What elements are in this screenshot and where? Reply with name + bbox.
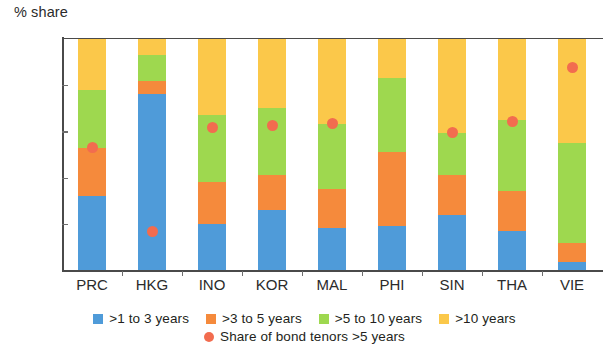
bar-segment bbox=[138, 81, 166, 95]
bar-group bbox=[198, 39, 226, 270]
bar-group bbox=[258, 39, 286, 270]
bar-group bbox=[438, 39, 466, 270]
bar-segment bbox=[78, 148, 106, 197]
bar-segment bbox=[558, 262, 586, 270]
bar-segment bbox=[318, 189, 346, 228]
overlay-data-point bbox=[87, 142, 98, 153]
bar-segment bbox=[378, 226, 406, 270]
legend-label: >10 years bbox=[455, 311, 516, 326]
bar-segment bbox=[258, 210, 286, 270]
bar-segment bbox=[558, 243, 586, 261]
legend-circle-icon bbox=[204, 332, 214, 342]
x-axis-category-label: VIE bbox=[537, 276, 607, 293]
legend-square-icon bbox=[319, 314, 329, 324]
overlay-data-point bbox=[207, 122, 218, 133]
bar-segment bbox=[78, 90, 106, 148]
y-axis-title: % share bbox=[14, 4, 68, 20]
bar-segment bbox=[138, 39, 166, 55]
bar-segment bbox=[138, 55, 166, 80]
bar-segment bbox=[198, 182, 226, 224]
overlay-data-point bbox=[447, 127, 458, 138]
stacked-bar-chart: % share 020406080100 PRCHKGINOKORMALPHIS… bbox=[0, 0, 609, 345]
legend-item[interactable]: >10 years bbox=[439, 311, 516, 326]
legend-item[interactable]: >1 to 3 years bbox=[93, 311, 189, 326]
bar-segment bbox=[78, 196, 106, 270]
bar-segment bbox=[498, 231, 526, 270]
legend-item[interactable]: Share of bond tenors >5 years bbox=[204, 329, 405, 344]
bar-segment bbox=[318, 124, 346, 189]
legend-square-icon bbox=[206, 314, 216, 324]
overlay-data-point bbox=[147, 226, 158, 237]
bar-segment bbox=[498, 39, 526, 120]
legend-primary-row: >1 to 3 years>3 to 5 years>5 to 10 years… bbox=[0, 311, 609, 326]
bar-segment bbox=[558, 39, 586, 143]
legend-label: >3 to 5 years bbox=[222, 311, 302, 326]
bar-segment bbox=[318, 39, 346, 124]
bar-segment bbox=[438, 39, 466, 133]
bar-segment bbox=[258, 108, 286, 175]
bar-group bbox=[138, 39, 166, 270]
bar-segment bbox=[258, 39, 286, 108]
bar-segment bbox=[318, 228, 346, 270]
legend-item[interactable]: >5 to 10 years bbox=[319, 311, 422, 326]
legend-label: Share of bond tenors >5 years bbox=[220, 329, 405, 344]
bar-group bbox=[78, 39, 106, 270]
plot-area bbox=[62, 39, 602, 270]
bar-segment bbox=[498, 120, 526, 192]
legend-square-icon bbox=[93, 314, 103, 324]
overlay-data-point bbox=[267, 120, 278, 131]
x-axis-line bbox=[62, 270, 603, 272]
overlay-data-point bbox=[327, 118, 338, 129]
bar-segment bbox=[138, 94, 166, 270]
bar-segment bbox=[438, 133, 466, 176]
bar-segment bbox=[258, 175, 286, 210]
bar-segment bbox=[198, 39, 226, 115]
bar-group bbox=[378, 39, 406, 270]
bar-segment bbox=[198, 224, 226, 270]
bar-segment bbox=[438, 215, 466, 270]
bar-segment bbox=[438, 175, 466, 214]
bar-segment bbox=[498, 191, 526, 230]
bar-segment bbox=[78, 39, 106, 90]
bar-segment bbox=[558, 143, 586, 243]
legend-square-icon bbox=[439, 314, 449, 324]
legend-secondary-row: Share of bond tenors >5 years bbox=[0, 329, 609, 344]
overlay-data-point bbox=[507, 116, 518, 127]
overlay-data-point bbox=[567, 62, 578, 73]
legend-label: >1 to 3 years bbox=[109, 311, 189, 326]
bar-segment bbox=[378, 152, 406, 226]
bar-segment bbox=[378, 39, 406, 78]
legend-item[interactable]: >3 to 5 years bbox=[206, 311, 302, 326]
bar-group bbox=[318, 39, 346, 270]
legend-label: >5 to 10 years bbox=[335, 311, 422, 326]
bar-segment bbox=[378, 78, 406, 152]
bar-group bbox=[498, 39, 526, 270]
bar-group bbox=[558, 39, 586, 270]
